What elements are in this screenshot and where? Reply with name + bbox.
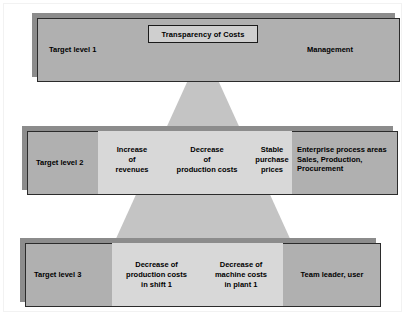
level-3-right-label: Team leader, user bbox=[288, 270, 376, 280]
transparency-of-costs-label: Transparency of Costs bbox=[162, 30, 245, 39]
level-2-cell-2[interactable]: Decrease of production costs bbox=[163, 145, 251, 174]
level-2-cell-3[interactable]: Stable purchase prices bbox=[250, 145, 294, 174]
diagram-canvas: Target level 1 Management Transparency o… bbox=[0, 0, 407, 321]
level-2-right-label: Enterprise process areas Sales, Producti… bbox=[297, 145, 402, 174]
level-3-cell-2[interactable]: Decrease of machine costs in plant 1 bbox=[201, 260, 281, 289]
level-1-left-label: Target level 1 bbox=[49, 45, 159, 55]
transparency-of-costs-box[interactable]: Transparency of Costs bbox=[148, 25, 258, 43]
level-2-cell-1[interactable]: Increase of revenues bbox=[102, 145, 162, 174]
level-1-right-label: Management bbox=[275, 45, 385, 55]
level-3-cell-1[interactable]: Decrease of production costs in shift 1 bbox=[114, 260, 199, 289]
level-3-left-label: Target level 3 bbox=[34, 270, 124, 280]
